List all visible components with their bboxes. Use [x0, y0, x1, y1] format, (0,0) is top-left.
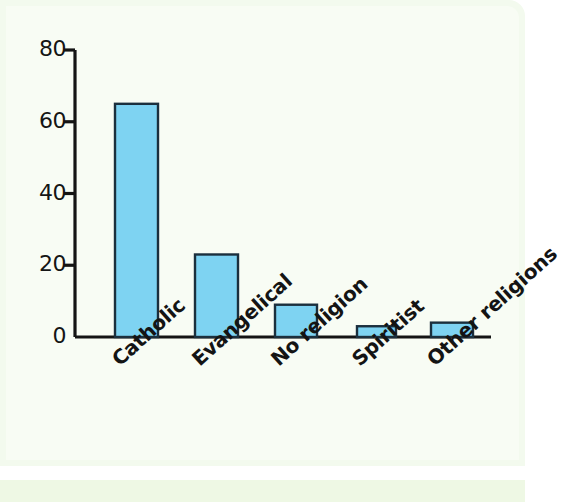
x-axis-tick-label: Spiritist	[347, 294, 429, 371]
x-axis-tick-label: Other religions	[422, 242, 562, 371]
x-axis-tick-label: Catholic	[107, 293, 190, 371]
x-axis-tick-labels: CatholicEvangelicalNo religionSpiritistO…	[0, 0, 525, 466]
bar-chart: 020406080 CatholicEvangelicalNo religion…	[0, 0, 525, 466]
page-bottom-strip	[0, 480, 525, 502]
panel-bottom-gap	[0, 466, 525, 480]
